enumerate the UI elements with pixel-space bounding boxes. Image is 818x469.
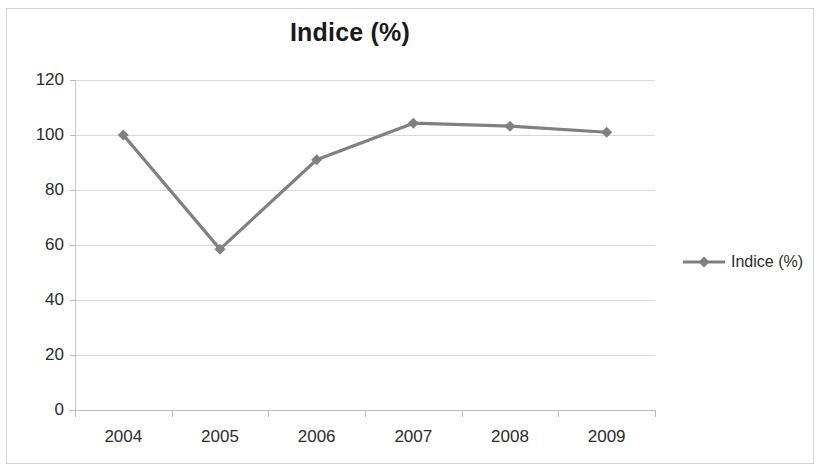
x-axis-tick xyxy=(462,410,463,417)
data-point-marker xyxy=(601,127,612,138)
y-axis-tick-label: 120 xyxy=(36,70,64,90)
x-axis-tick-label: 2006 xyxy=(298,427,336,447)
x-axis-tick xyxy=(268,410,269,417)
x-axis-tick-label: 2005 xyxy=(201,427,239,447)
chart-legend: Indice (%) xyxy=(683,253,803,271)
y-axis-tick-label: 40 xyxy=(45,290,64,310)
y-axis-tick-label: 80 xyxy=(45,180,64,200)
plot-area: 020406080100120 200420052006200720082009 xyxy=(75,80,655,410)
y-axis-tick-label: 20 xyxy=(45,345,64,365)
data-series-layer xyxy=(75,80,655,410)
x-axis-tick xyxy=(655,410,656,417)
x-axis-tick xyxy=(558,410,559,417)
legend-marker-icon xyxy=(683,255,725,269)
legend-entry-label: Indice (%) xyxy=(731,253,803,271)
y-axis-tick-label: 100 xyxy=(36,125,64,145)
series-line xyxy=(123,123,606,249)
y-axis-tick-label: 60 xyxy=(45,235,64,255)
y-axis-tick-label: 0 xyxy=(55,400,64,420)
chart-title: Indice (%) xyxy=(0,18,700,47)
x-axis-tick xyxy=(75,410,76,417)
x-axis-tick xyxy=(365,410,366,417)
x-axis-tick-label: 2007 xyxy=(394,427,432,447)
x-axis-tick-label: 2009 xyxy=(588,427,626,447)
x-axis-tick-label: 2004 xyxy=(104,427,142,447)
data-point-marker xyxy=(408,118,419,129)
data-point-marker xyxy=(505,121,516,132)
chart-figure: Indice (%) 020406080100120 2004200520062… xyxy=(0,0,818,469)
x-axis-tick-label: 2008 xyxy=(491,427,529,447)
x-axis-tick xyxy=(172,410,173,417)
